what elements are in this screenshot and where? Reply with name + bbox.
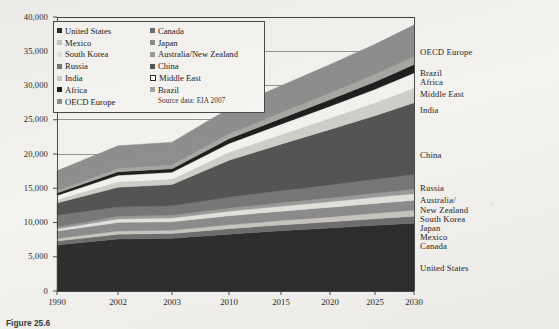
legend-swatch-icon bbox=[57, 28, 62, 33]
legend-column-right: CanadaJapanAustralia/New ZealandChinaMid… bbox=[150, 25, 262, 105]
legend-swatch-icon bbox=[57, 40, 62, 45]
legend-item: Africa bbox=[57, 84, 157, 96]
series-callout-label: India bbox=[420, 105, 439, 115]
legend-item: South Korea bbox=[57, 49, 157, 61]
legend-column-left: United StatesMexicoSouth KoreaRussiaIndi… bbox=[57, 25, 157, 108]
x-tick-label: 2003 bbox=[152, 297, 192, 307]
chart-legend: United StatesMexicoSouth KoreaRussiaIndi… bbox=[53, 21, 265, 113]
legend-item: Mexico bbox=[57, 37, 157, 49]
legend-swatch-icon bbox=[150, 64, 155, 69]
y-tick-label: 10,000 bbox=[2, 217, 48, 227]
legend-item: India bbox=[57, 72, 157, 84]
figure-caption: Figure 25.6 bbox=[6, 318, 50, 328]
y-tick-label: 30,000 bbox=[2, 80, 48, 90]
legend-item-label: Mexico bbox=[65, 38, 91, 48]
x-tick-label: 2020 bbox=[310, 297, 350, 307]
series-callout-label: United States bbox=[420, 263, 469, 273]
x-tick-label: 2002 bbox=[98, 297, 138, 307]
series-callout-label: Middle East bbox=[420, 89, 464, 99]
legend-swatch-icon bbox=[57, 87, 62, 92]
x-tick-label: 2010 bbox=[209, 297, 249, 307]
legend-item-label: Australia/New Zealand bbox=[158, 49, 238, 59]
legend-swatch-icon bbox=[150, 52, 155, 57]
y-tick-label: 20,000 bbox=[2, 149, 48, 159]
y-tick-label: 40,000 bbox=[2, 12, 48, 22]
legend-item: China bbox=[150, 60, 262, 72]
legend-source-note: Source data: EIA 2007 bbox=[158, 97, 262, 105]
legend-item-label: Middle East bbox=[159, 73, 201, 83]
y-tick-label: 0 bbox=[2, 286, 48, 296]
legend-swatch-icon bbox=[150, 40, 155, 45]
figure-root: 05,00010,00015,00020,00025,00030,00035,0… bbox=[0, 0, 559, 329]
legend-item-label: India bbox=[65, 73, 83, 83]
series-callout-label: OECD Europe bbox=[420, 47, 473, 57]
legend-item-label: Brazil bbox=[158, 85, 179, 95]
legend-swatch-icon bbox=[57, 52, 62, 57]
y-tick-label: 35,000 bbox=[2, 46, 48, 56]
x-tick-label: 1990 bbox=[37, 297, 77, 307]
y-tick-label: 15,000 bbox=[2, 183, 48, 193]
series-callout-label: Australia/ bbox=[420, 195, 456, 205]
legend-item-label: Japan bbox=[158, 38, 178, 48]
legend-item-label: China bbox=[158, 61, 179, 71]
legend-swatch-icon bbox=[150, 75, 156, 81]
legend-item-label: Russia bbox=[65, 61, 88, 71]
legend-item: Russia bbox=[57, 60, 157, 72]
y-tick-label: 25,000 bbox=[2, 114, 48, 124]
legend-item: OECD Europe bbox=[57, 96, 157, 108]
legend-item: Canada bbox=[150, 25, 262, 37]
legend-item: Japan bbox=[150, 37, 262, 49]
legend-item-label: Africa bbox=[65, 85, 87, 95]
legend-item: United States bbox=[57, 25, 157, 37]
x-tick-label: 2025 bbox=[355, 297, 395, 307]
legend-swatch-icon bbox=[57, 64, 62, 69]
legend-swatch-icon bbox=[150, 28, 155, 33]
series-callout-label: Canada bbox=[420, 241, 447, 251]
series-callout-label: Russia bbox=[420, 183, 444, 193]
legend-item-label: OECD Europe bbox=[65, 97, 115, 107]
series-callout-label: Africa bbox=[420, 77, 443, 87]
legend-swatch-icon bbox=[57, 99, 62, 104]
legend-item-label: Canada bbox=[158, 26, 184, 36]
y-tick-label: 5,000 bbox=[2, 251, 48, 261]
legend-item-label: South Korea bbox=[65, 49, 108, 59]
legend-swatch-icon bbox=[57, 76, 62, 81]
x-tick-label: 2015 bbox=[261, 297, 301, 307]
x-tick-label: 2030 bbox=[394, 297, 434, 307]
legend-item-label: United States bbox=[65, 26, 111, 36]
legend-swatch-icon bbox=[150, 87, 155, 92]
legend-item: Middle East bbox=[150, 72, 262, 84]
series-callout-label: China bbox=[420, 150, 442, 160]
legend-item: Australia/New Zealand bbox=[150, 49, 262, 61]
legend-item: Brazil bbox=[150, 84, 262, 96]
